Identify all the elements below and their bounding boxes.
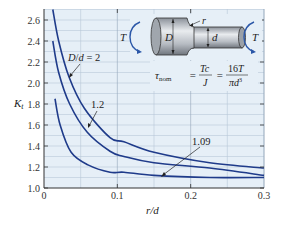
torque-left-label: T <box>120 31 127 43</box>
x-axis-label: r/d <box>146 204 159 216</box>
x-tick-labels: 00.10.20.3 <box>42 190 271 201</box>
x-tick-label: 0.2 <box>184 190 197 201</box>
shaft-large-section <box>156 18 194 55</box>
x-tick-label: 0.3 <box>258 190 271 201</box>
svg-text:J: J <box>203 77 208 88</box>
x-tick-label: 0 <box>42 190 47 201</box>
svg-text:=: = <box>189 69 196 81</box>
x-tick-label: 0.1 <box>111 190 124 201</box>
annotation-dd109: 1.09 <box>192 136 210 147</box>
dimension-D-label: D <box>164 31 173 43</box>
shaft-diagram: D d r T T <box>120 14 262 60</box>
y-axis-label: Kt <box>13 97 24 111</box>
dimension-d-label: d <box>212 31 218 43</box>
stress-concentration-chart: 1.01.21.41.61.82.02.22.42.6 00.10.20.3 K… <box>0 0 281 228</box>
fillet-r-label: r <box>202 15 206 26</box>
y-tick-label: 1.0 <box>28 183 41 194</box>
y-tick-label: 2.2 <box>28 57 41 68</box>
annotation-dd12: 1.2 <box>91 99 104 110</box>
annotation-dd2: D/d = 2 <box>67 52 100 63</box>
y-tick-label: 2.0 <box>28 78 41 89</box>
y-tick-label: 2.4 <box>28 36 41 47</box>
svg-text:=: = <box>216 69 223 81</box>
y-axis-label-sub: t <box>21 102 24 111</box>
svg-text:Tc: Tc <box>200 63 210 74</box>
y-tick-label: 2.6 <box>28 15 41 26</box>
nominal-stress-formula: τnom = Tc J = 16T πd3 <box>150 61 258 91</box>
shaft-large-end <box>151 18 161 55</box>
torque-right-label: T <box>252 31 259 43</box>
y-tick-label: 1.2 <box>28 162 41 173</box>
y-tick-label: 1.4 <box>28 141 41 152</box>
y-tick-label: 1.8 <box>28 99 41 110</box>
y-tick-label: 1.6 <box>28 120 41 131</box>
svg-text:16T: 16T <box>228 63 245 74</box>
